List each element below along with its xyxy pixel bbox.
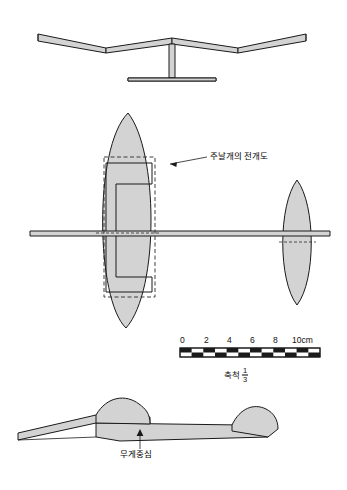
scale-fraction-denominator: 3 xyxy=(242,375,248,383)
side-view xyxy=(18,398,278,449)
diagram-sheet: .ol { fill: none; stroke: #1a1a1a; strok… xyxy=(0,0,347,490)
scale-tick-8: 8 xyxy=(273,335,278,345)
scale-bar-tick-labels: 0 2 4 6 8 10cm xyxy=(180,335,320,347)
plan-view xyxy=(30,113,330,328)
scale-tick-6: 6 xyxy=(250,335,255,345)
scale-fraction: 1 3 xyxy=(242,367,248,384)
scale-tick-0: 0 xyxy=(180,335,185,345)
center-of-gravity-label: 무게중심 xyxy=(120,450,152,459)
scale-tick-10cm: 10cm xyxy=(292,335,313,345)
glider-technical-drawing: .ol { fill: none; stroke: #1a1a1a; strok… xyxy=(0,0,347,490)
front-view xyxy=(38,34,306,81)
scale-bar xyxy=(180,348,320,357)
scale-tick-4: 4 xyxy=(227,335,232,345)
scale-tick-2: 2 xyxy=(204,335,209,345)
wing-development-label: 주날개의 전개도 xyxy=(210,152,268,161)
scale-caption: 축척 1 3 xyxy=(224,366,248,383)
scale-caption-prefix: 축척 xyxy=(224,368,240,380)
scale-fraction-numerator: 1 xyxy=(242,367,248,375)
